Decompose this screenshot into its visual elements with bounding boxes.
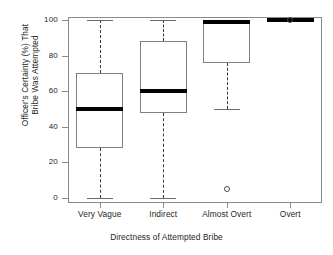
whisker-cap-lower [150,198,176,199]
whisker-lower [163,113,164,198]
x-axis-tick-label: Indirect [149,209,177,219]
x-axis-tick [100,203,101,208]
median-line [140,89,187,93]
x-axis-tick [163,203,164,208]
x-axis-tick [290,203,291,208]
x-axis-tick-label: Overt [280,209,301,219]
median-line [203,20,250,24]
y-axis-tick [62,91,68,92]
whisker-upper [100,20,101,73]
whisker-cap-lower [214,109,240,110]
y-axis-tick [62,198,68,199]
y-axis-title-line-1: Officer's Certainty (%) That [20,24,30,126]
y-axis-title-line-2: Bribe Was Attempted [30,35,40,115]
box-indirect [140,41,187,112]
y-axis-tick-label: 80 [32,51,58,60]
whisker-cap-upper [150,20,176,21]
x-axis-title: Directness of Attempted Bribe [0,232,333,242]
whisker-lower [227,63,228,109]
whisker-lower [100,148,101,198]
y-axis-tick-label: 0 [32,193,58,202]
x-axis-tick [227,203,228,208]
median-line [76,107,123,111]
y-axis-tick [62,20,68,21]
y-axis-tick [62,56,68,57]
y-axis-tick [62,127,68,128]
boxplot-figure: Officer's Certainty (%) That Bribe Was A… [0,0,333,255]
whisker-cap-lower [87,198,113,199]
y-axis-tick [62,162,68,163]
whisker-cap-upper [87,20,113,21]
outlier-point [287,17,293,23]
y-axis-tick-label: 100 [32,15,58,24]
outlier-point [224,186,230,192]
whisker-upper [163,20,164,41]
y-axis-tick-label: 40 [32,122,58,131]
box-almost-overt [203,20,250,63]
x-axis-tick-label: Almost Overt [202,209,251,219]
x-axis-tick-label: Very Vague [78,209,121,219]
y-axis-tick-label: 20 [32,157,58,166]
y-axis-tick-label: 60 [32,86,58,95]
